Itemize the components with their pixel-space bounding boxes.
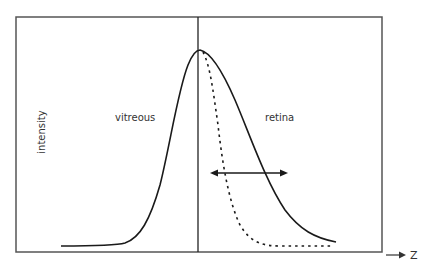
z-axis-label: Z	[410, 249, 418, 262]
region-label-retina: retina	[265, 112, 294, 123]
width-double-arrow	[210, 170, 288, 177]
z-axis-arrow	[386, 252, 406, 259]
plot-frame	[16, 17, 382, 252]
region-label-vitreous: vitreous	[115, 112, 155, 123]
y-axis-label: intensity	[36, 110, 47, 153]
dotted-profile-curve	[203, 52, 334, 246]
intensity-profile-diagram: Z intensity vitreous retina	[0, 0, 426, 268]
